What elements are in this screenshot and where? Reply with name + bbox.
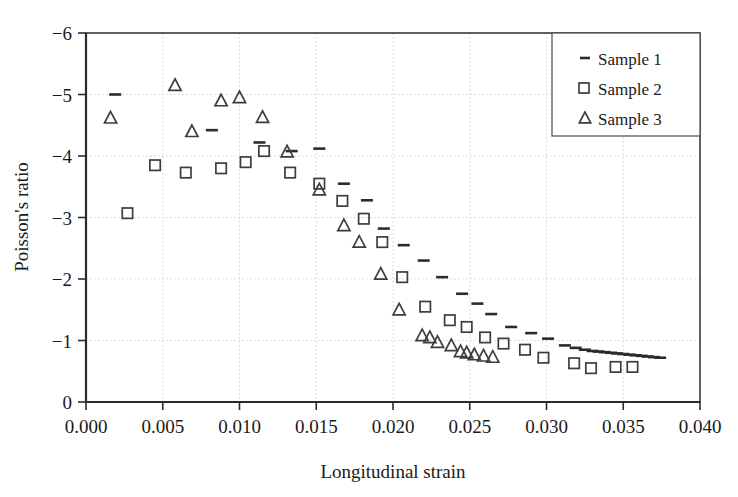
x-tick-labels: 0.0000.0050.0100.0150.0200.0250.0300.035… [65, 416, 722, 437]
data-point-marker [487, 351, 499, 363]
x-tick-label: 0.000 [65, 416, 108, 437]
data-point-marker [122, 208, 132, 218]
data-point-marker [104, 111, 116, 123]
data-point-marker [256, 111, 268, 123]
data-point-marker [569, 358, 579, 368]
data-point-marker [337, 196, 347, 206]
y-tick-label: −2 [52, 269, 72, 290]
x-tick-label: 0.005 [141, 416, 184, 437]
y-tick-labels: 0−1−2−3−4−5−6 [52, 23, 73, 413]
y-tick-label: −4 [52, 146, 73, 167]
data-point-marker [215, 94, 227, 106]
data-point-marker [216, 163, 226, 173]
data-point-marker [353, 236, 365, 248]
y-tick-label: −1 [52, 331, 72, 352]
x-axis-title: Longitudinal strain [320, 461, 466, 482]
legend-label: Sample 1 [598, 50, 662, 69]
data-point-marker [627, 362, 637, 372]
y-tick-label: −5 [52, 85, 72, 106]
x-tick-label: 0.020 [372, 416, 415, 437]
data-point-marker [520, 345, 530, 355]
data-point-marker [420, 301, 430, 311]
series-sample-3 [104, 79, 498, 362]
series-sample-2 [122, 146, 637, 373]
data-point-marker [397, 272, 407, 282]
data-point-marker [377, 237, 387, 247]
data-point-marker [359, 214, 369, 224]
data-point-marker [240, 157, 250, 167]
x-tick-label: 0.040 [679, 416, 722, 437]
data-point-marker [150, 160, 160, 170]
x-tick-label: 0.025 [448, 416, 491, 437]
data-point-marker [186, 125, 198, 137]
data-point-marker [586, 363, 596, 373]
data-point-marker [610, 362, 620, 372]
x-tick-label: 0.015 [295, 416, 338, 437]
data-point-marker [461, 322, 471, 332]
data-point-marker [445, 315, 455, 325]
y-tick-label: −3 [52, 208, 72, 229]
x-tick-label: 0.030 [525, 416, 568, 437]
legend-label: Sample 2 [598, 80, 662, 99]
data-point-marker [169, 79, 181, 91]
data-point-marker [233, 91, 245, 103]
data-point-marker [393, 303, 405, 315]
data-point-marker [259, 146, 269, 156]
data-point-marker [498, 338, 508, 348]
data-point-marker [181, 167, 191, 177]
data-point-marker [375, 268, 387, 280]
chart-figure: 0.0000.0050.0100.0150.0200.0250.0300.035… [0, 0, 738, 497]
y-axis-title: Poisson's ratio [11, 162, 32, 272]
scatter-plot-svg: 0.0000.0050.0100.0150.0200.0250.0300.035… [0, 0, 738, 497]
y-tick-label: 0 [63, 392, 73, 413]
legend-label: Sample 3 [598, 110, 662, 129]
data-point-marker [285, 167, 295, 177]
y-tick-label: −6 [52, 23, 72, 44]
data-point-marker [338, 219, 350, 231]
data-point-marker [480, 332, 490, 342]
data-point-marker [538, 353, 548, 363]
x-tick-label: 0.035 [602, 416, 645, 437]
x-tick-label: 0.010 [218, 416, 261, 437]
chart-legend: Sample 1Sample 2Sample 3 [552, 33, 700, 136]
